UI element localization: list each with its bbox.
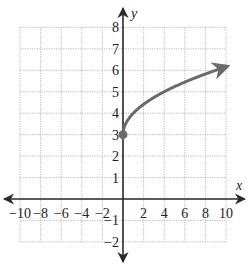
x-tick-label: 2	[140, 206, 147, 221]
x-tick-label: 8	[202, 206, 209, 221]
start-point-dot	[119, 130, 128, 139]
x-axis-label: x	[235, 178, 243, 193]
x-tick-label: 4	[161, 206, 168, 221]
y-tick-label: 3	[112, 128, 119, 143]
y-tick-label: 7	[112, 42, 119, 57]
y-tick-label: −1	[104, 213, 119, 228]
y-axis-label: y	[129, 6, 138, 21]
y-tick-label: 6	[112, 63, 119, 78]
y-tick-label: 5	[112, 85, 119, 100]
x-tick-label: −6	[54, 206, 69, 221]
x-tick-label: −8	[33, 206, 48, 221]
function-curve	[119, 66, 228, 139]
y-tick-label: 2	[112, 149, 119, 164]
y-tick-label: 8	[112, 20, 119, 35]
x-tick-label: 10	[219, 206, 233, 221]
x-tick-label: 6	[181, 206, 188, 221]
x-tick-label: −4	[74, 206, 89, 221]
y-tick-label: −2	[104, 235, 119, 250]
function-graph: −10−8−6−4−224681087654321−1−2 x y	[0, 0, 249, 269]
y-tick-label: 1	[112, 171, 119, 186]
x-tick-label: −10	[9, 206, 31, 221]
y-tick-label: 4	[112, 106, 119, 121]
curve-path	[123, 66, 227, 134]
